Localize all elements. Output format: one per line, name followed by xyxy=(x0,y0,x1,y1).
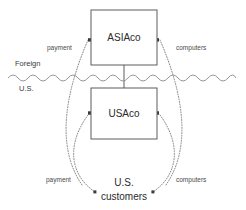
region-label-us: U.S. xyxy=(19,84,34,93)
flow-label-computers-upper: computers xyxy=(176,44,207,52)
actor-label-customers-line1: U.S. xyxy=(114,177,133,188)
arrowhead-customers-right xyxy=(151,190,154,193)
transaction-flow-diagram: ASIAco USAco Foreign U.S. payment comput… xyxy=(0,0,246,210)
flow-label-computers-lower: computers xyxy=(176,176,207,184)
flow-arc-payment-upper xyxy=(66,40,88,185)
region-label-foreign: Foreign xyxy=(15,59,40,68)
diagram-canvas: ASIAco USAco Foreign U.S. payment comput… xyxy=(0,0,246,210)
entity-label-usaco: USAco xyxy=(108,108,140,119)
entity-label-asiaco: ASIAco xyxy=(107,32,141,43)
actor-label-customers-line2: customers xyxy=(101,191,147,202)
flow-label-payment-upper: payment xyxy=(47,44,72,52)
flow-label-payment-lower: payment xyxy=(46,176,71,184)
national-border-wavy-line xyxy=(8,75,236,81)
flow-arc-computers-upper xyxy=(160,40,182,185)
arrowhead-customers-left xyxy=(93,190,96,193)
